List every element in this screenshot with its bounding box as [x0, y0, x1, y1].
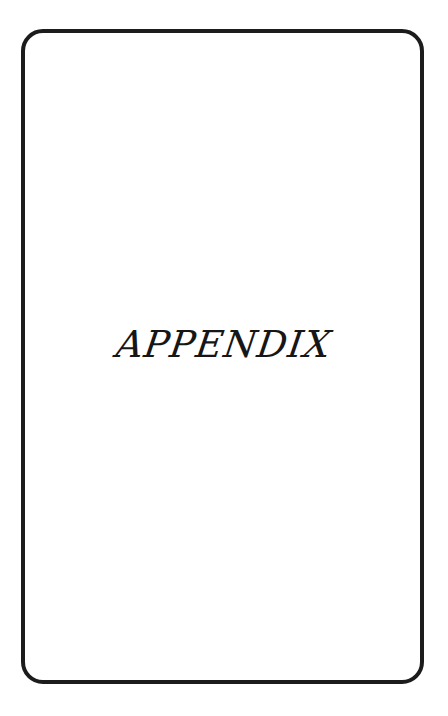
page-title: APPENDIX	[0, 323, 448, 366]
